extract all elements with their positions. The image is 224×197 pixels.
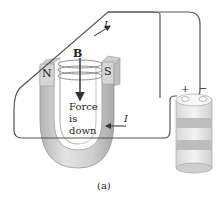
north-label: N [42,68,52,79]
battery [176,94,212,173]
force-text-line1: Force [69,102,98,112]
circuit-diagram [0,0,224,197]
minus-label: − [199,84,207,94]
south-label: S [104,66,112,77]
plus-label: + [181,84,189,94]
current-label-top: I [104,20,108,30]
force-text-line3: down [69,126,96,136]
current-label-bottom: I [124,114,128,124]
force-text-line2: is [69,114,77,124]
field-label: B [73,48,82,59]
positive-terminal [181,97,189,102]
figure-caption: (a) [97,181,111,191]
negative-terminal [199,97,207,102]
